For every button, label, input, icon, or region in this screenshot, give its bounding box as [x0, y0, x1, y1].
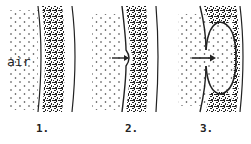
invagination-diagram: air 1. 2. 3. — [0, 0, 251, 144]
air-dots — [178, 14, 206, 106]
outer-wall-line — [38, 6, 41, 112]
panel-3: 3. — [178, 6, 243, 135]
panel-1: air 1. — [7, 6, 75, 135]
inner-wall-line — [156, 6, 158, 112]
inner-wall-line — [240, 6, 243, 112]
panel-number-1: 1. — [36, 122, 49, 135]
inner-wall-line — [72, 6, 75, 112]
panel-number-2: 2. — [125, 122, 138, 135]
air-label: air — [7, 54, 31, 69]
air-dots — [92, 14, 122, 110]
panel-2: 2. — [92, 6, 158, 135]
panel-number-3: 3. — [200, 122, 213, 135]
tissue-layer — [42, 6, 65, 112]
